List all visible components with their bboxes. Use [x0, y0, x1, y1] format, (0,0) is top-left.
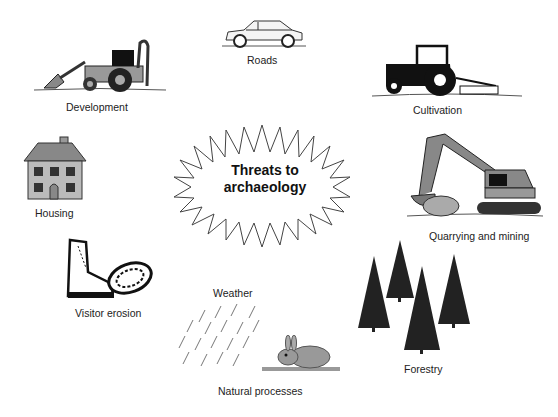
- label-cultivation: Cultivation: [413, 104, 462, 116]
- excavator-icon: [405, 130, 545, 220]
- rabbit-icon: [260, 335, 342, 375]
- hiking-boot-icon: [64, 238, 154, 300]
- title-line-1: Threats to: [215, 162, 315, 179]
- car-icon: [222, 16, 306, 50]
- house-icon: [22, 135, 88, 201]
- conifer-trees-icon: [352, 238, 472, 358]
- backhoe-loader-icon: [30, 38, 170, 94]
- label-development: Development: [66, 101, 128, 113]
- diagram-title: Threats to archaeology: [215, 162, 315, 196]
- label-weather: Weather: [213, 287, 253, 299]
- label-roads: Roads: [247, 54, 277, 66]
- label-natural-processes: Natural processes: [218, 385, 303, 397]
- rain-icon: [175, 300, 265, 370]
- label-visitor-erosion: Visitor erosion: [75, 307, 141, 319]
- label-housing: Housing: [35, 207, 74, 219]
- title-line-2: archaeology: [215, 179, 315, 196]
- label-forestry: Forestry: [404, 363, 443, 375]
- tractor-plough-icon: [372, 42, 522, 98]
